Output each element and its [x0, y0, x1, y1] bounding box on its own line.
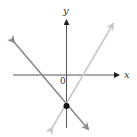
- y-axis-label: y: [62, 5, 69, 16]
- coordinate-diagram: y x 0: [0, 0, 137, 137]
- origin-label: 0: [60, 76, 66, 86]
- intersection-point: [64, 103, 70, 109]
- x-axis-label: x: [124, 69, 130, 80]
- diagram-canvas: y x 0: [0, 0, 137, 137]
